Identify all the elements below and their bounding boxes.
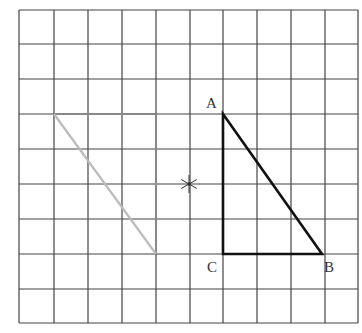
star-center-dot [187, 182, 191, 186]
vertex-label-b: B [324, 259, 334, 275]
vertex-label-a: A [206, 95, 217, 111]
grid-diagram: A C B [0, 0, 362, 333]
square-grid [19, 10, 358, 323]
vertex-label-c: C [207, 259, 217, 275]
